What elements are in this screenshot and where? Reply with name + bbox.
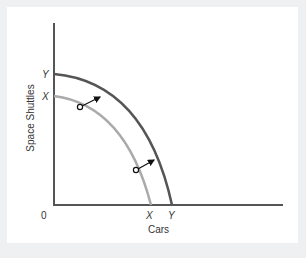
point-upper xyxy=(77,104,82,109)
y-tick-outer: Y xyxy=(42,69,50,80)
point-lower xyxy=(133,167,138,172)
x-axis-title: Cars xyxy=(148,224,169,235)
y-tick-inner: X xyxy=(41,91,49,102)
curve-x xyxy=(54,96,151,205)
y-axis-title: Space Shuttles xyxy=(25,84,36,151)
ppf-chart: Y X 0 X Y Cars Space Shuttles xyxy=(0,0,306,258)
curve-y xyxy=(54,74,172,205)
x-tick-outer: Y xyxy=(168,210,176,221)
shift-arrow-lower xyxy=(138,160,154,169)
origin-label: 0 xyxy=(41,210,47,221)
shift-arrow-upper xyxy=(82,97,100,106)
x-tick-inner: X xyxy=(145,210,153,221)
